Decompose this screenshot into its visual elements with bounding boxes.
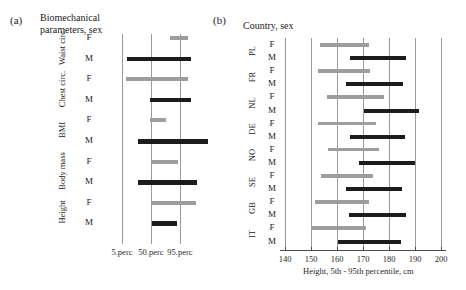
panel-b-tick-mark-150 <box>311 247 312 250</box>
bar-pl-f <box>320 43 369 47</box>
panel-b-sex-label-fr-m: M <box>266 78 278 88</box>
figure-root: (a) Biomechanical parameters, sex 5.perc… <box>0 0 466 290</box>
panel-b-axis-line <box>280 250 446 251</box>
panel-b-gridline-140 <box>285 38 286 250</box>
bar-no-m <box>359 161 415 165</box>
bar-se-m <box>346 187 402 191</box>
panel-b-sex-label-de-f: F <box>266 118 278 128</box>
panel-b-sex-label-no-f: F <box>266 144 278 154</box>
panel-b-plot: 140150160170180190200Height, 5th - 95th … <box>0 0 466 290</box>
bar-gb-f <box>315 200 370 204</box>
panel-b-sex-label-pl-m: M <box>266 52 278 62</box>
panel-b-sex-label-se-m: M <box>266 183 278 193</box>
panel-b-sex-label-gb-f: F <box>266 196 278 206</box>
bar-no-f <box>328 148 379 152</box>
bar-fr-f <box>318 69 370 73</box>
panel-b-sex-label-it-f: F <box>266 222 278 232</box>
panel-b-sex-label-fr-f: F <box>266 65 278 75</box>
panel-b-group-label-it: IT <box>247 204 257 264</box>
panel-b-tick-mark-200 <box>441 247 442 250</box>
bar-gb-m <box>349 213 406 217</box>
panel-b-axis-title: Height, 5th - 95th percentile, cm <box>303 266 414 276</box>
panel-b-tick-200: 200 <box>426 254 456 264</box>
bar-nl-f <box>327 95 384 99</box>
panel-b-sex-label-se-f: F <box>266 170 278 180</box>
panel-b-sex-label-nl-f: F <box>266 91 278 101</box>
panel-b-sex-label-pl-f: F <box>266 39 278 49</box>
panel-b-sex-label-de-m: M <box>266 131 278 141</box>
panel-b-sex-label-it-m: M <box>266 236 278 246</box>
panel-b-sex-label-nl-m: M <box>266 105 278 115</box>
bar-nl-m <box>364 109 419 113</box>
panel-b-gridline-150 <box>311 38 312 250</box>
panel-b-sex-label-no-m: M <box>266 157 278 167</box>
panel-b-tick-mark-170 <box>363 247 364 250</box>
panel-b-tick-mark-190 <box>415 247 416 250</box>
bar-de-m <box>350 135 405 139</box>
bar-it-m <box>338 240 400 244</box>
bar-it-f <box>311 226 366 230</box>
bar-se-f <box>321 174 373 178</box>
bar-fr-m <box>346 82 403 86</box>
panel-b-sex-label-gb-m: M <box>266 209 278 219</box>
panel-b-tick-mark-140 <box>285 247 286 250</box>
panel-b-gridline-200 <box>441 38 442 250</box>
panel-b-tick-mark-160 <box>337 247 338 250</box>
panel-b-tick-mark-180 <box>389 247 390 250</box>
bar-de-f <box>318 122 377 126</box>
bar-pl-m <box>350 56 406 60</box>
panel-b-gridline-190 <box>415 38 416 250</box>
panel-b-gridline-180 <box>389 38 390 250</box>
